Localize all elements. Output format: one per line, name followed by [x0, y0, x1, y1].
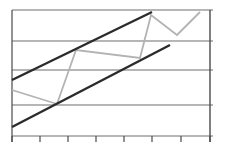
price-line — [12, 12, 200, 104]
lower-trendline-line — [12, 45, 170, 127]
channel-chart — [0, 0, 226, 152]
